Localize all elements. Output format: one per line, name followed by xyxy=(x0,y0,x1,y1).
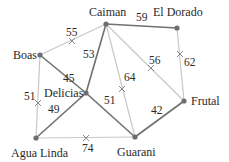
weight-caiman-delicias: 53 xyxy=(83,48,95,60)
node-caiman xyxy=(103,21,108,26)
weight-agualinda-guarani: 74 xyxy=(82,142,94,154)
label-guarani: Guarani xyxy=(117,145,156,159)
weight-caiman-frutal: 56 xyxy=(149,54,161,66)
graph-diagram: Caiman El Dorado Boas Delicias Frutal Ag… xyxy=(0,0,229,162)
weight-caiman-guarani: 64 xyxy=(124,71,136,83)
weight-delicias-guarani: 51 xyxy=(104,94,116,106)
edge-caiman-eldorado xyxy=(106,24,177,28)
edge-eldorado-frutal xyxy=(177,28,184,101)
weight-caiman-boas: 55 xyxy=(66,26,78,38)
label-caiman: Caiman xyxy=(89,5,126,19)
node-frutal xyxy=(181,98,186,103)
weight-guarani-frutal: 42 xyxy=(151,104,163,116)
label-eldorado: El Dorado xyxy=(153,5,203,19)
node-boas xyxy=(37,52,42,57)
weight-boas-agualinda: 51 xyxy=(24,90,36,102)
label-boas: Boas xyxy=(13,48,37,62)
node-eldorado xyxy=(174,25,179,30)
weight-caiman-eldorado: 59 xyxy=(136,11,148,23)
node-agualinda xyxy=(33,135,38,140)
edge-boas-agualinda xyxy=(36,55,40,138)
label-frutal: Frutal xyxy=(191,94,220,108)
weight-eldorado-frutal: 62 xyxy=(184,56,196,68)
weight-delicias-agualinda: 49 xyxy=(48,103,60,115)
label-agualinda: Agua Linda xyxy=(11,146,69,160)
edge-caiman-frutal xyxy=(106,24,184,101)
node-delicias xyxy=(83,90,88,95)
weight-boas-delicias: 45 xyxy=(63,72,75,84)
label-delicias: Delicias xyxy=(44,86,84,100)
node-guarani xyxy=(132,134,137,139)
